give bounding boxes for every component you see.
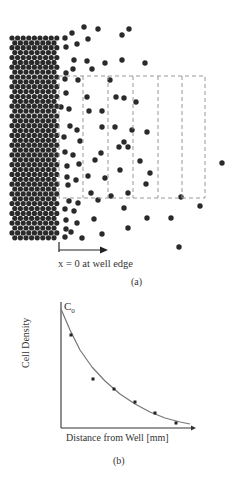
y-axis-label: Cell Density	[20, 318, 31, 368]
well-edge-label: x = 0 at well edge	[58, 258, 133, 269]
data-point	[113, 388, 116, 391]
x-axis-label: Distance from Well [mm]	[66, 432, 169, 443]
figure-canvas	[0, 0, 233, 482]
data-point	[92, 378, 95, 381]
diffusion-figure: x = 0 at well edge (a) C0 Cell Density D…	[0, 0, 233, 482]
caption-a: (a)	[131, 276, 142, 287]
dense-cell-region	[9, 35, 59, 240]
cell-density-chart	[61, 302, 196, 431]
data-point	[134, 401, 137, 404]
data-point	[70, 334, 73, 337]
migrating-cells	[58, 24, 224, 249]
caption-b: (b)	[113, 455, 125, 466]
c0-label: C0	[64, 300, 75, 315]
x-axis-arrow-icon	[191, 426, 196, 431]
dashed-counting-grid	[59, 76, 205, 198]
x-origin-arrow	[59, 242, 108, 254]
data-point	[175, 422, 178, 425]
arrow-head-icon	[100, 247, 108, 254]
data-point	[154, 412, 157, 415]
